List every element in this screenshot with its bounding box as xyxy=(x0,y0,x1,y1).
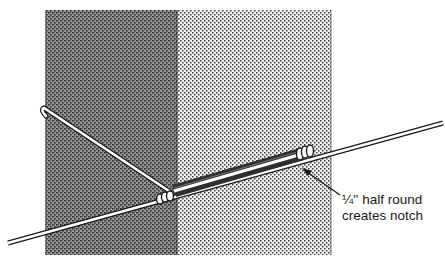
dark-panel xyxy=(45,10,177,255)
callout-line-1: ¼'' half round xyxy=(342,192,423,208)
illustration: ¼'' half round creates notch xyxy=(0,0,445,265)
callout-line-2: creates notch xyxy=(342,208,423,224)
diagram-canvas xyxy=(0,0,445,265)
callout-label: ¼'' half round creates notch xyxy=(342,192,423,224)
light-panel xyxy=(177,10,331,255)
